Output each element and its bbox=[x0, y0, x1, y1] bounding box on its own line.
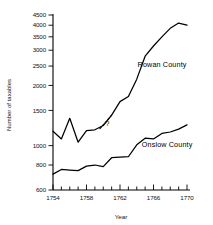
x-tick-label-1754: 1754 bbox=[46, 194, 60, 201]
series-line-onslow-county bbox=[53, 125, 187, 174]
y-axis-title: Number of taxables bbox=[6, 79, 12, 131]
y-axis-ticks bbox=[49, 15, 54, 190]
y-tick-label-1500: 1500 bbox=[33, 107, 47, 114]
y-tick-label-600: 600 bbox=[36, 186, 47, 193]
x-tick-label-1762: 1762 bbox=[113, 194, 127, 201]
series-label-onslow-county: Onslow County bbox=[142, 140, 193, 149]
y-tick-label-3500: 3500 bbox=[33, 33, 47, 40]
uncertainty-question-mark: ? bbox=[105, 120, 109, 127]
x-axis-ticks bbox=[53, 185, 187, 191]
y-tick-label-1000: 1000 bbox=[33, 142, 47, 149]
x-tick-label-1766: 1766 bbox=[147, 194, 161, 201]
y-tick-label-2500: 2500 bbox=[33, 62, 47, 69]
x-axis-tick-labels: 17541758176217661770 bbox=[46, 194, 194, 201]
taxables-line-chart: Number of taxables 600800100015002000250… bbox=[0, 0, 213, 225]
chart-container: Number of taxables 600800100015002000250… bbox=[0, 0, 213, 225]
y-axis-title-text: Number of taxables bbox=[6, 79, 12, 131]
y-tick-label-800: 800 bbox=[36, 161, 47, 168]
series-label-rowan-county: Rowan County bbox=[138, 60, 187, 69]
y-tick-label-2000: 2000 bbox=[33, 82, 47, 89]
y-axis-tick-labels: 60080010001500200025003000350040004500 bbox=[33, 11, 47, 193]
x-tick-label-1758: 1758 bbox=[80, 194, 94, 201]
series-line-rowan-county bbox=[53, 23, 187, 142]
y-tick-label-4500: 4500 bbox=[33, 11, 47, 18]
x-tick-label-1770: 1770 bbox=[180, 194, 194, 201]
x-axis-title-text: Year bbox=[115, 213, 128, 220]
y-tick-label-3000: 3000 bbox=[33, 46, 47, 53]
y-tick-label-4000: 4000 bbox=[33, 21, 47, 28]
